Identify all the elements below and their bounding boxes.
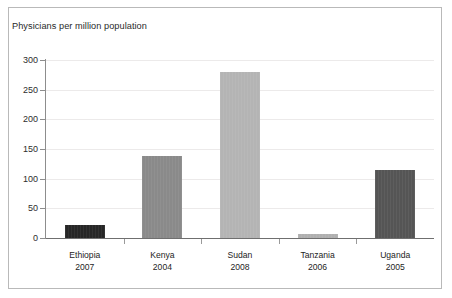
y-tick-label-300: 300 [4,55,38,65]
y-tick-label-100: 100 [4,174,38,184]
x-tick-mark-2 [201,239,202,244]
x-axis-line [45,238,434,239]
category-year: 2007 [46,262,124,274]
category-year: 2008 [201,262,279,274]
bar-texture [375,170,415,238]
category-year: 2005 [356,262,434,274]
category-year: 2006 [279,262,357,274]
y-tick-label-0: 0 [4,233,38,243]
plot-area [46,60,434,238]
category-label-uganda: Uganda2005 [356,250,434,273]
bar-kenya [142,156,182,238]
bar-ethiopia [65,225,105,238]
y-tick-mark-100 [40,179,46,180]
y-tick-label-250: 250 [4,85,38,95]
x-tick-mark-4 [356,239,357,244]
y-tick-label-50: 50 [4,203,38,213]
y-tick-mark-0 [40,238,46,239]
bar-sudan [220,72,260,238]
category-label-tanzania: Tanzania2006 [279,250,357,273]
category-label-ethiopia: Ethiopia2007 [46,250,124,273]
bar-uganda [375,170,415,238]
category-name: Sudan [201,250,279,262]
y-tick-mark-250 [40,90,46,91]
category-label-kenya: Kenya2004 [124,250,202,273]
x-tick-mark-1 [124,239,125,244]
category-name: Ethiopia [46,250,124,262]
x-tick-mark-3 [279,239,280,244]
y-tick-mark-150 [40,149,46,150]
y-axis-tick-labels: 050100150200250300 [0,0,38,298]
category-name: Kenya [124,250,202,262]
category-name: Uganda [356,250,434,262]
y-tick-label-150: 150 [4,144,38,154]
category-name: Tanzania [279,250,357,262]
category-year: 2004 [124,262,202,274]
gridline-300 [46,60,434,61]
y-tick-label-200: 200 [4,114,38,124]
bar-texture [220,72,260,238]
bar-texture [65,225,105,238]
y-tick-mark-200 [40,119,46,120]
category-label-sudan: Sudan2008 [201,250,279,273]
bar-texture [142,156,182,238]
y-tick-mark-50 [40,208,46,209]
y-tick-mark-300 [40,60,46,61]
